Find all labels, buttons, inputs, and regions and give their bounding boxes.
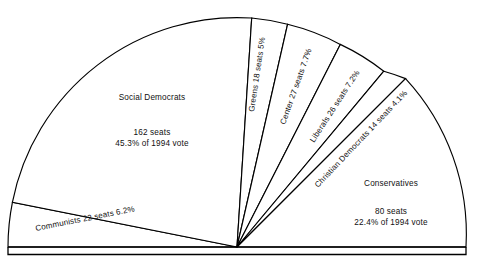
label-conservatives-name: Conservatives	[364, 179, 418, 188]
label-social-democrats-seats: 162 seats	[134, 128, 171, 137]
label-conservatives-share: 22.4% of 1994 vote	[354, 218, 428, 227]
chart-canvas: Communists 22 seats 6.2% Social Democrat…	[0, 0, 477, 261]
label-conservatives-seats: 80 seats	[375, 207, 407, 216]
semicircle-pie-chart: Communists 22 seats 6.2% Social Democrat…	[0, 0, 477, 261]
baseline-frame	[8, 247, 466, 255]
label-social-democrats-name: Social Democrats	[119, 93, 186, 102]
label-social-democrats-share: 45.3% of 1994 vote	[115, 139, 189, 148]
